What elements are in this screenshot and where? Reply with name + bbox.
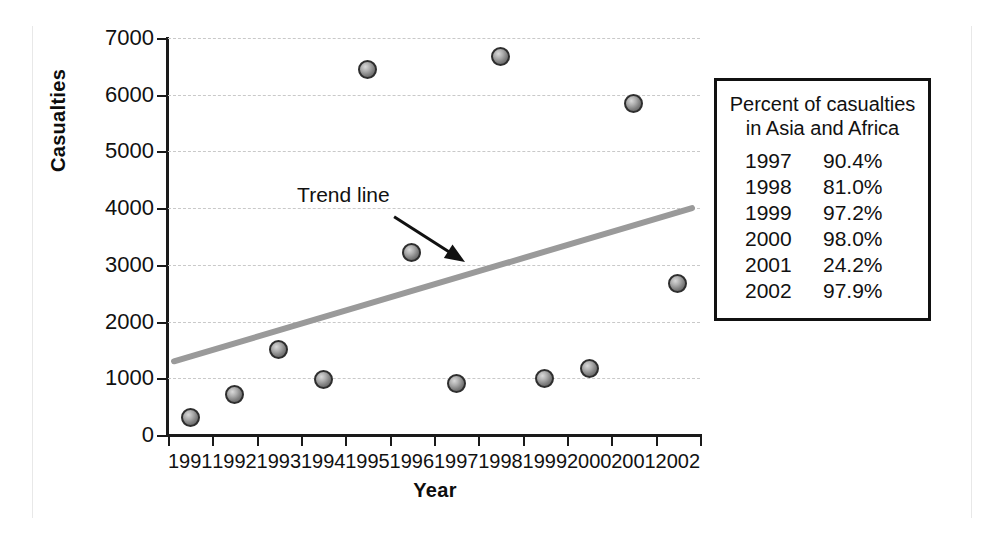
x-axis-tick (345, 435, 347, 446)
x-axis-tick (567, 435, 569, 446)
table-cell-percent: 81.0% (823, 174, 918, 200)
y-axis-tick-label: 7000 (105, 27, 154, 49)
y-axis-tick-label: 5000 (105, 140, 154, 162)
page-edge-line-left (32, 26, 33, 518)
figure-root: 01000200030004000500060007000 1991199219… (0, 0, 1006, 533)
x-axis-tick (301, 435, 303, 446)
data-point (580, 359, 599, 378)
scatter-plot-area: 01000200030004000500060007000 1991199219… (168, 38, 700, 435)
table-cell-year: 1998 (727, 174, 823, 200)
x-axis-tick-label: 2001 (611, 451, 656, 471)
x-axis-tick-label: 1996 (390, 451, 435, 471)
table-row: 199881.0% (717, 174, 928, 200)
x-axis-tick (700, 435, 702, 446)
y-axis-tick-label: 1000 (105, 367, 154, 389)
x-axis-tick-label: 1997 (434, 451, 479, 471)
x-axis-tick (656, 435, 658, 446)
x-axis-tick (611, 435, 613, 446)
table-cell-percent: 90.4% (823, 148, 918, 174)
data-point (314, 370, 333, 389)
table-cell-year: 2000 (727, 226, 823, 252)
table-title-line-1: Percent of casualties (723, 93, 922, 117)
table-row: 200098.0% (717, 226, 928, 252)
table-cell-year: 2001 (727, 252, 823, 278)
x-axis-tick-label: 1995 (345, 451, 390, 471)
table-cell-year: 1997 (727, 148, 823, 174)
table-title: Percent of casualties in Asia and Africa (717, 91, 928, 148)
y-axis-tick-label: 0 (142, 424, 154, 446)
table-row: 199997.2% (717, 200, 928, 226)
x-axis-tick (257, 435, 259, 446)
y-axis-tick (157, 208, 168, 210)
y-axis-tick (157, 95, 168, 97)
table-row: 199790.4% (717, 148, 928, 174)
x-axis-tick-label: 1994 (301, 451, 346, 471)
table-body: 199790.4%199881.0%199997.2%200098.0%2001… (717, 148, 928, 304)
page-edge-line-right (971, 26, 972, 518)
table-cell-percent: 98.0% (823, 226, 918, 252)
percent-casualties-table: Percent of casualties in Asia and Africa… (714, 78, 931, 321)
y-axis-tick (157, 322, 168, 324)
x-axis-tick-label: 1993 (257, 451, 302, 471)
y-axis-tick-label: 4000 (105, 197, 154, 219)
trend-line-annotation-label: Trend line (297, 184, 390, 205)
trend-line-layer (168, 38, 700, 435)
x-axis-tick-label: 1991 (168, 451, 213, 471)
y-axis-tick (157, 265, 168, 267)
x-axis-tick (434, 435, 436, 446)
y-axis-tick-label: 2000 (105, 311, 154, 333)
x-axis-tick (390, 435, 392, 446)
x-axis-tick-label: 1992 (212, 451, 257, 471)
y-axis-tick-label: 3000 (105, 254, 154, 276)
data-point (491, 47, 510, 66)
y-axis-tick (157, 38, 168, 40)
table-row: 200297.9% (717, 278, 928, 304)
table-cell-percent: 97.2% (823, 200, 918, 226)
table-title-line-2: in Asia and Africa (723, 117, 922, 141)
y-axis-tick (157, 378, 168, 380)
table-cell-percent: 97.9% (823, 278, 918, 304)
data-point (624, 94, 643, 113)
x-axis-tick-label: 1998 (478, 451, 523, 471)
trend-line (174, 208, 692, 361)
y-axis-tick-label: 6000 (105, 84, 154, 106)
y-axis-tick (157, 151, 168, 153)
x-axis-tick-label: 1999 (523, 451, 568, 471)
x-axis-tick-label: 2002 (656, 451, 701, 471)
x-axis-tick (478, 435, 480, 446)
x-axis-tick (212, 435, 214, 446)
y-axis-tick (157, 435, 168, 437)
x-axis-tick (523, 435, 525, 446)
x-axis-tick-label: 2000 (567, 451, 612, 471)
table-row: 200124.2% (717, 252, 928, 278)
x-axis-tick (168, 435, 170, 446)
x-axis-title: Year (0, 479, 870, 502)
table-cell-year: 1999 (727, 200, 823, 226)
table-cell-percent: 24.2% (823, 252, 918, 278)
data-point (447, 374, 466, 393)
table-cell-year: 2002 (727, 278, 823, 304)
y-axis-title: Casualties (47, 69, 70, 172)
